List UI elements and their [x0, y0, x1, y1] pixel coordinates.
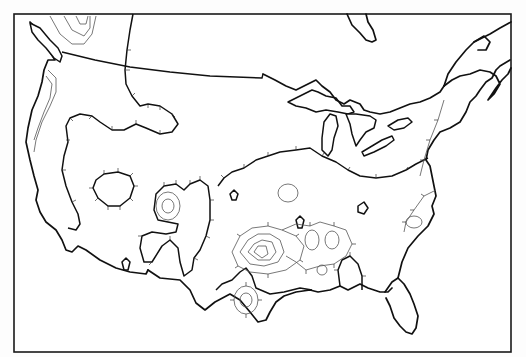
map-figure [0, 0, 526, 357]
map-frame [14, 14, 511, 352]
contour-map [0, 0, 526, 357]
